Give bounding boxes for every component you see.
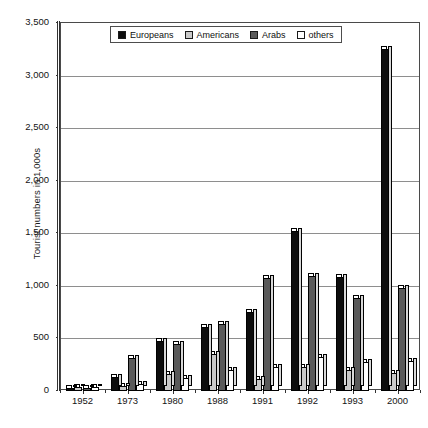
bar-side-face bbox=[208, 324, 212, 386]
bar-side-face bbox=[306, 364, 310, 386]
y-tick-label: 1,500 bbox=[0, 226, 49, 237]
gridline bbox=[61, 233, 419, 234]
x-tick-label-2000: 2000 bbox=[376, 395, 420, 406]
bar-side-face bbox=[253, 309, 257, 386]
bar-top-face bbox=[156, 338, 162, 342]
bar-side-face bbox=[315, 273, 319, 386]
bar-side-face bbox=[98, 384, 102, 386]
bar-side-face bbox=[360, 295, 364, 386]
bar-side-face bbox=[81, 384, 85, 386]
x-tick-label-1973: 1973 bbox=[106, 395, 150, 406]
bar-arabs-1973 bbox=[128, 358, 136, 391]
bar-europeans-2000 bbox=[381, 49, 389, 391]
bar-side-face bbox=[135, 355, 139, 386]
y-tick-label: 0 bbox=[0, 384, 49, 395]
bar-side-face bbox=[343, 274, 347, 386]
bar-top-face bbox=[263, 275, 269, 279]
bar-top-face bbox=[246, 309, 252, 313]
x-tick-label-1991: 1991 bbox=[241, 395, 285, 406]
legend-swatch-others-icon bbox=[297, 31, 305, 39]
bar-arabs-1991 bbox=[263, 278, 271, 391]
bar-side-face bbox=[351, 367, 355, 386]
legend-label: Arabs bbox=[262, 30, 286, 40]
bar-europeans-1993 bbox=[336, 277, 344, 391]
bar-side-face bbox=[388, 46, 392, 386]
legend-entry-americans[interactable]: Americans bbox=[185, 30, 240, 40]
bar-side-face bbox=[188, 375, 192, 386]
bar-side-face bbox=[368, 359, 372, 386]
bar-side-face bbox=[180, 341, 184, 386]
y-tick-label: 500 bbox=[0, 331, 49, 342]
legend-swatch-americans-icon bbox=[185, 31, 193, 39]
bar-top-face bbox=[111, 374, 117, 378]
bar-top-face bbox=[398, 285, 404, 289]
x-tick-label-1952: 1952 bbox=[61, 395, 105, 406]
x-axis-boundary-mark bbox=[420, 390, 421, 393]
bar-side-face bbox=[233, 367, 237, 386]
tourist-numbers-bar-chart: Tourist numbers in 1,000s 05001,0001,500… bbox=[0, 0, 428, 428]
bar-side-face bbox=[216, 351, 220, 386]
legend-swatch-europeans-icon bbox=[118, 31, 126, 39]
bar-side-face bbox=[298, 228, 302, 386]
bar-side-face bbox=[126, 383, 130, 386]
bar-top-face bbox=[291, 228, 297, 232]
x-tick-label-1988: 1988 bbox=[196, 395, 240, 406]
bar-top-face bbox=[128, 355, 134, 359]
bar-top-face bbox=[381, 46, 387, 50]
legend-label: others bbox=[309, 30, 334, 40]
bar-side-face bbox=[413, 358, 417, 386]
legend-entry-arabs[interactable]: Arabs bbox=[250, 30, 286, 40]
bar-side-face bbox=[73, 385, 77, 387]
plot-area bbox=[60, 22, 420, 390]
bar-americans-1973 bbox=[119, 386, 127, 391]
bar-others-1952 bbox=[91, 387, 99, 391]
y-axis-title: Tourist numbers in 1,000s bbox=[31, 74, 42, 334]
bar-side-face bbox=[171, 371, 175, 386]
legend-entry-others[interactable]: others bbox=[297, 30, 334, 40]
gridline bbox=[61, 338, 419, 339]
x-tick-label-1992: 1992 bbox=[286, 395, 330, 406]
bar-side-face bbox=[405, 285, 409, 386]
x-axis-boundary-mark bbox=[195, 390, 196, 393]
y-tick-label: 2,000 bbox=[0, 174, 49, 185]
bar-top-face bbox=[308, 273, 314, 277]
bar-europeans-1992 bbox=[291, 231, 299, 391]
y-tick-label: 1,000 bbox=[0, 279, 49, 290]
bar-top-face bbox=[201, 324, 207, 328]
x-axis-boundary-mark bbox=[240, 390, 241, 393]
gridline bbox=[61, 286, 419, 287]
bar-side-face bbox=[278, 364, 282, 386]
bar-side-face bbox=[90, 385, 94, 387]
bar-europeans-1952 bbox=[66, 388, 74, 391]
bar-europeans-1991 bbox=[246, 312, 254, 391]
bar-top-face bbox=[218, 321, 224, 325]
gridline bbox=[61, 181, 419, 182]
bar-side-face bbox=[396, 370, 400, 386]
y-tick-label: 3,000 bbox=[0, 69, 49, 80]
bar-europeans-1988 bbox=[201, 327, 209, 391]
bar-side-face bbox=[143, 381, 147, 386]
legend-entry-europeans[interactable]: Europeans bbox=[118, 30, 174, 40]
gridline bbox=[61, 76, 419, 77]
x-axis-boundary-mark bbox=[150, 390, 151, 393]
legend-label: Europeans bbox=[130, 30, 174, 40]
bar-side-face bbox=[323, 354, 327, 386]
x-axis-boundary-mark bbox=[375, 390, 376, 393]
legend-label: Americans bbox=[197, 30, 240, 40]
bar-top-face bbox=[173, 341, 179, 345]
x-tick-label-1993: 1993 bbox=[331, 395, 375, 406]
bar-top-face bbox=[66, 385, 72, 389]
bar-top-face bbox=[336, 274, 342, 278]
x-axis-boundary-mark bbox=[330, 390, 331, 393]
bar-side-face bbox=[270, 275, 274, 386]
chart-legend: EuropeansAmericansArabsothers bbox=[110, 26, 342, 43]
bar-side-face bbox=[261, 376, 265, 386]
x-axis-boundary-mark bbox=[105, 390, 106, 393]
bar-top-face bbox=[353, 295, 359, 299]
x-axis-boundary-mark bbox=[285, 390, 286, 393]
bar-americans-1952 bbox=[74, 387, 82, 391]
bar-arabs-1952 bbox=[83, 388, 91, 391]
y-tick-label: 2,500 bbox=[0, 121, 49, 132]
bar-europeans-1980 bbox=[156, 341, 164, 391]
gridline bbox=[61, 128, 419, 129]
